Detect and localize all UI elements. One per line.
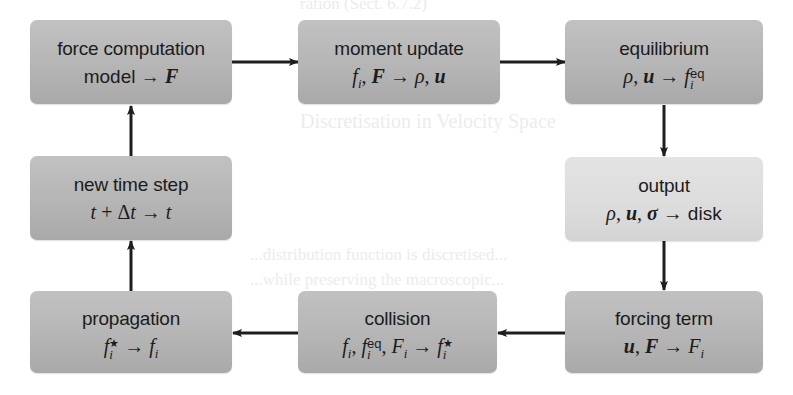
box-output: output ρ, u, σ → disk xyxy=(565,157,763,241)
box-propagation: propagation f★i → fi xyxy=(30,291,232,373)
box-formula: u, F → Fi xyxy=(624,333,704,359)
box-title: equilibrium xyxy=(619,37,709,61)
box-title: collision xyxy=(365,307,431,331)
box-formula: fi, F → ρ, u xyxy=(352,63,445,89)
box-title: moment update xyxy=(334,37,463,61)
box-formula: t + Δt → t xyxy=(91,199,172,225)
box-title: propagation xyxy=(82,307,180,331)
box-force-computation: force computation model → F xyxy=(30,20,232,104)
box-forcing-term: forcing term u, F → Fi xyxy=(565,291,763,373)
box-moment-update: moment update fi, F → ρ, u xyxy=(298,20,500,104)
box-formula: f★i → fi xyxy=(104,333,159,360)
box-formula: ρ, u, σ → disk xyxy=(606,200,721,227)
box-title: output xyxy=(638,174,690,198)
box-equilibrium: equilibrium ρ, u → feqi xyxy=(565,20,763,104)
box-formula: model → F xyxy=(84,63,179,90)
box-formula: ρ, u → feqi xyxy=(624,63,705,90)
box-formula: fi, feqi, Fi → f★i xyxy=(342,333,453,360)
box-title: forcing term xyxy=(615,307,713,331)
box-new-time-step: new time step t + Δt → t xyxy=(30,156,232,240)
box-title: new time step xyxy=(74,173,189,197)
box-title: force computation xyxy=(57,37,205,61)
box-collision: collision fi, feqi, Fi → f★i xyxy=(298,291,497,373)
